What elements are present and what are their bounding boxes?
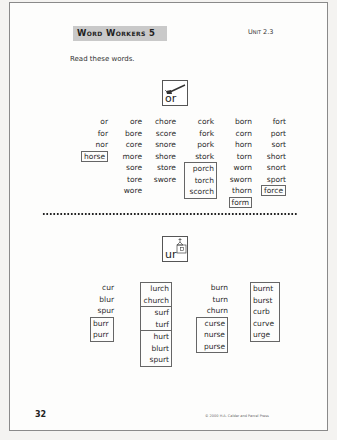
ur-key-box: ur [162, 236, 188, 262]
word: curve [253, 318, 277, 330]
word: spur [90, 305, 114, 317]
word: shore [146, 151, 176, 163]
word-group-box: surf turf [140, 307, 172, 331]
copyright-notice: © 2000 H.A. Calder and Parcel Press [205, 414, 269, 418]
word-group-box: hurt blurt spurt [140, 331, 172, 367]
word: burst [253, 295, 277, 307]
word: ore [112, 116, 142, 128]
word: blurt [143, 343, 169, 355]
word: sworn [222, 174, 252, 186]
word: cork [184, 116, 214, 128]
word-group-box: burnt burst curb curve urge [250, 282, 280, 342]
or-column-4: cork fork pork stork porch torch scorch [184, 116, 214, 199]
ur-key-text: ur [165, 249, 177, 261]
word: port [258, 128, 286, 140]
word: spurt [143, 354, 169, 366]
word: corn [222, 128, 252, 140]
word: horn [222, 139, 252, 151]
word: cur [90, 282, 114, 294]
word: wore [112, 185, 142, 197]
word: or [78, 116, 108, 128]
word: torn [222, 151, 252, 163]
word: stork [184, 151, 214, 163]
word-group-box: lurch church [140, 282, 172, 307]
word-group-box: curse nurse purse [196, 317, 228, 354]
word: born [222, 116, 252, 128]
word: purr [93, 329, 111, 341]
word: turf [143, 319, 169, 331]
word: nurse [199, 329, 225, 341]
word-boxed: form [229, 197, 253, 208]
word: curb [253, 306, 277, 318]
or-key-text: or [165, 93, 176, 105]
or-key-box: or [162, 80, 188, 106]
word: snore [146, 139, 176, 151]
word: sport [258, 174, 286, 186]
word: porch [187, 163, 214, 175]
word: thorn [222, 185, 252, 197]
word: burr [93, 318, 111, 330]
word-group-box: burr purr [90, 317, 114, 342]
word: store [146, 162, 176, 174]
word-group-box: porch torch scorch [184, 162, 217, 199]
ur-column-4: burnt burst curb curve urge [250, 282, 280, 342]
page-number: 32 [35, 410, 46, 419]
word: bore [112, 128, 142, 140]
ur-column-2: lurch church surf turf hurt blurt spurt [140, 282, 172, 367]
word: more [112, 151, 142, 163]
word: core [112, 139, 142, 151]
word: sore [112, 162, 142, 174]
worksheet-title: Word Workers 5 [73, 26, 167, 41]
word: worn [222, 162, 252, 174]
ur-column-1: cur blur spur burr purr [90, 282, 114, 342]
word: torch [187, 175, 214, 187]
word: sort [258, 139, 286, 151]
or-column-6: fort port sort short snort sport force [258, 116, 286, 197]
word: turn [198, 294, 228, 306]
word: short [258, 151, 286, 163]
unit-label: Unit 2.3 [248, 28, 273, 36]
or-column-1: or for nor horse [78, 116, 108, 162]
word: for [78, 128, 108, 140]
word: burnt [253, 283, 277, 295]
word: urge [253, 329, 277, 341]
word: surf [143, 307, 169, 319]
word: churn [198, 305, 228, 317]
word: lurch [143, 283, 169, 295]
word: snort [258, 162, 286, 174]
word: hurt [143, 331, 169, 343]
word: swore [146, 174, 176, 186]
word-boxed: force [261, 185, 286, 196]
word: pork [184, 139, 214, 151]
word: blur [90, 294, 114, 306]
word: score [146, 128, 176, 140]
word: fork [184, 128, 214, 140]
dotted-divider [42, 213, 298, 215]
word: tore [112, 174, 142, 186]
word: purse [199, 341, 225, 353]
or-column-5: born corn horn torn worn sworn thorn for… [222, 116, 252, 208]
word: chore [146, 116, 176, 128]
worksheet-page [9, 2, 328, 431]
word: curse [199, 318, 225, 330]
word: fort [258, 116, 286, 128]
word: nor [78, 139, 108, 151]
word: church [143, 295, 169, 307]
word: scorch [187, 186, 214, 198]
or-column-3: chore score snore shore store swore [146, 116, 176, 185]
or-column-2: ore bore core more sore tore wore [112, 116, 142, 197]
word-boxed: horse [81, 151, 108, 162]
instructions: Read these words. [70, 55, 135, 63]
ur-column-3: burn turn churn curse nurse purse [198, 282, 228, 353]
word: burn [198, 282, 228, 294]
